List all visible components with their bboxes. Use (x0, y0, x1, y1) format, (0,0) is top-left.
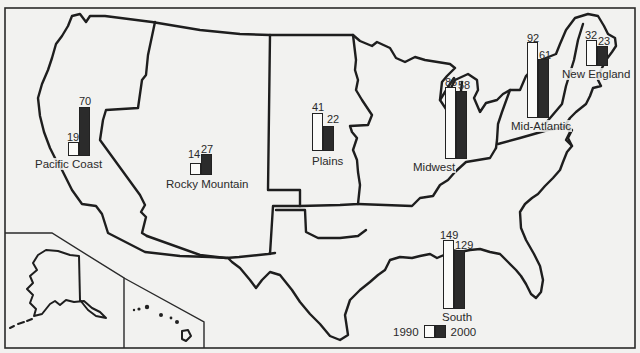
bar-1990 (68, 142, 79, 156)
region-label: Mid-Atlantic (510, 120, 572, 132)
value-1990: 41 (312, 102, 324, 113)
bar-2000 (201, 154, 212, 175)
bar-2000 (323, 126, 334, 151)
alaska-inset-frame (5, 233, 124, 348)
region-label: South (441, 311, 473, 323)
border-rocky-plains (268, 35, 300, 254)
bar-1990 (312, 113, 323, 151)
legend-swatch-2000 (435, 325, 446, 338)
aleutian-islands (10, 319, 32, 328)
legend-label-1990: 1990 (393, 326, 419, 338)
bar-1990 (527, 42, 538, 118)
alaska-outline (27, 250, 106, 318)
region-label: Rocky Mountain (165, 178, 249, 190)
region-label: Midwest (412, 161, 456, 173)
bar-1990 (445, 87, 456, 159)
legend-swatch-1990 (424, 325, 435, 338)
border-plains-south (276, 210, 366, 238)
bar-2000 (597, 46, 608, 66)
border-pacific-rocky (100, 22, 155, 236)
region-label: Plains (311, 155, 344, 167)
bar-2000 (79, 107, 90, 156)
hawaii-inset-frame (124, 278, 204, 348)
bar-2000 (454, 250, 465, 309)
border-midwest-south (358, 148, 496, 206)
bar-1990 (586, 40, 597, 66)
bar-1990 (190, 163, 201, 175)
region-label: Pacific Coast (34, 158, 103, 170)
bar-2000 (456, 91, 467, 159)
bar-1990 (443, 240, 454, 309)
region-label: New England (561, 68, 631, 80)
bar-2000 (538, 59, 549, 118)
legend-label-2000: 2000 (451, 326, 477, 338)
value-2000: 70 (79, 96, 91, 107)
legend: 1990 2000 (393, 325, 476, 338)
